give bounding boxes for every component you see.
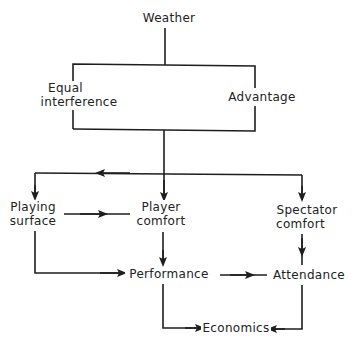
node-attendance-label: Attendance (269, 268, 349, 282)
node-economics: Economics (201, 321, 271, 335)
attendance-to-economics-line (272, 285, 302, 329)
distribution-line (35, 173, 302, 175)
node-player-comfort-line2: comfort (133, 214, 189, 228)
node-economics-label: Economics (201, 321, 271, 335)
node-weather-label: Weather (140, 11, 198, 25)
node-performance: Performance (125, 267, 213, 281)
playing-to-performance-line (35, 231, 122, 273)
node-playing-surface: Playing surface (6, 200, 60, 228)
node-weather: Weather (140, 11, 198, 25)
node-spectator-comfort-line1: Spectator (272, 203, 342, 217)
node-playing-surface-line2: surface (6, 214, 60, 228)
box-bottom (73, 106, 255, 131)
node-advantage-label: Advantage (226, 90, 298, 104)
performance-to-economics-line (163, 284, 200, 328)
node-performance-label: Performance (125, 267, 213, 281)
weather-flow-diagram: Weather Equal interference Advantage Pla… (0, 0, 356, 341)
node-equal-interference: Equal interference (38, 81, 120, 109)
node-equal-interference-line2: interference (38, 95, 120, 109)
node-equal-interference-line1: Equal (38, 81, 120, 95)
node-attendance: Attendance (269, 268, 349, 282)
connector-lines (0, 0, 356, 341)
node-player-comfort: Player comfort (133, 200, 189, 228)
node-player-comfort-line1: Player (133, 200, 189, 214)
node-spectator-comfort-line2: comfort (272, 217, 342, 231)
node-spectator-comfort: Spectator comfort (272, 203, 342, 231)
node-playing-surface-line1: Playing (6, 200, 60, 214)
node-advantage: Advantage (226, 90, 298, 104)
